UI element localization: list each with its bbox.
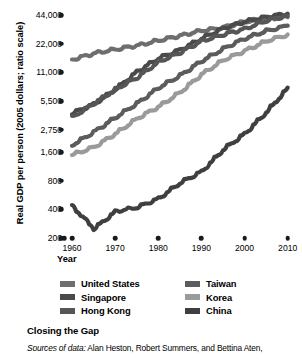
y-tick-marker (59, 70, 64, 75)
legend-item-taiwan[interactable]: Taiwan (185, 277, 236, 291)
chart-plot-area (0, 0, 302, 262)
y-tick-marker (59, 236, 64, 241)
y-tick-marker (59, 207, 64, 212)
legend-label: Singapore (81, 292, 126, 303)
series-line-china (72, 88, 288, 230)
y-tick-marker (59, 178, 64, 183)
y-tick-marker (59, 150, 64, 155)
legend-label: Taiwan (206, 278, 236, 289)
y-tick-marker (59, 41, 64, 46)
legend-swatch (185, 308, 200, 314)
legend-item-united-states[interactable]: United States (60, 277, 140, 291)
figure: Real GDP per person (2005 dollars; ratio… (0, 0, 302, 360)
legend-column-right: TaiwanKoreaChina (185, 277, 236, 318)
series-line-taiwan (72, 26, 288, 146)
x-axis-title: Year (57, 254, 77, 264)
legend-item-korea[interactable]: Korea (185, 291, 236, 305)
legend-swatch (60, 308, 75, 314)
y-tick-marker (59, 99, 64, 104)
legend-label: Korea (206, 292, 232, 303)
legend-item-singapore[interactable]: Singapore (60, 291, 140, 305)
legend-item-china[interactable]: China (185, 304, 236, 318)
legend-item-hong-kong[interactable]: Hong Kong (60, 304, 140, 318)
legend-swatch (185, 281, 200, 287)
caption-source: Sources of data: Alan Heston, Robert Sum… (27, 343, 302, 354)
legend-label: Hong Kong (81, 305, 131, 316)
caption-source-prefix: Sources of data: (27, 343, 86, 353)
series-line-singapore (72, 14, 288, 115)
y-tick-marker (59, 13, 64, 18)
caption-source-text: Alan Heston, Robert Summers, and Bettina… (87, 343, 262, 353)
legend-swatch (60, 294, 75, 300)
legend-swatch (60, 281, 75, 287)
legend-label: United States (81, 278, 140, 289)
caption-title: Closing the Gap (27, 325, 302, 336)
legend-label: China (206, 305, 232, 316)
legend-column-left: United StatesSingaporeHong Kong (60, 277, 140, 318)
figure-caption: Closing the Gap Sources of data: Alan He… (27, 325, 302, 354)
series-line-hong-kong (72, 15, 288, 115)
y-tick-marker (59, 127, 64, 132)
legend-swatch (185, 294, 200, 300)
